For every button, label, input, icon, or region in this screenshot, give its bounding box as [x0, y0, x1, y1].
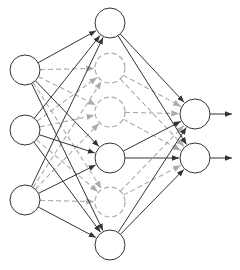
hidden-neuron	[95, 8, 125, 38]
active-connection	[38, 165, 95, 193]
active-connection	[123, 121, 180, 151]
connections	[31, 31, 232, 238]
output-neuron	[180, 143, 210, 173]
hidden-neuron-dropped	[95, 97, 125, 127]
input-neuron	[10, 115, 40, 145]
dropped-connection	[123, 119, 181, 150]
active-connection	[118, 127, 186, 232]
input-neuron	[10, 185, 40, 215]
active-connection	[34, 36, 100, 119]
dropped-connection	[40, 200, 94, 201]
active-connection	[39, 135, 95, 153]
active-connection	[32, 83, 103, 230]
dropped-connection	[125, 112, 179, 113]
neural-network-diagram	[0, 0, 240, 270]
dropped-connection	[40, 68, 94, 69]
output-neuron	[180, 99, 210, 129]
active-connection	[120, 34, 184, 102]
active-connection	[38, 207, 96, 237]
dropped-connection	[36, 140, 97, 192]
active-connection	[118, 36, 186, 145]
hidden-neuron	[95, 230, 125, 260]
hidden-neuron	[95, 143, 125, 173]
dropped-connection	[33, 81, 101, 187]
input-neuron	[10, 55, 40, 85]
active-connection	[38, 31, 96, 63]
active-connection	[34, 142, 101, 232]
active-connection	[31, 37, 103, 186]
hidden-neuron-dropped	[95, 187, 125, 217]
hidden-neuron-dropped	[95, 53, 125, 83]
dropped-connection	[38, 77, 95, 105]
